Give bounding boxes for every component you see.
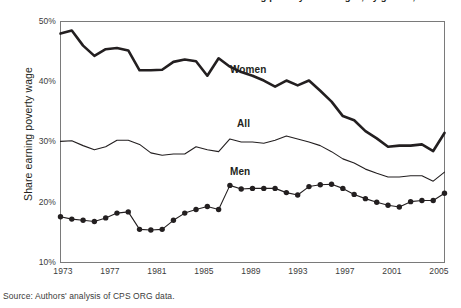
poverty-wage-chart-figure: Share of workers earning poverty-level w… — [0, 0, 461, 308]
data-point-men — [329, 181, 334, 186]
data-point-men — [250, 186, 255, 191]
data-point-men — [216, 207, 221, 212]
plot-area — [0, 0, 461, 308]
data-point-men — [340, 186, 345, 191]
data-point-men — [80, 218, 85, 223]
data-point-men — [295, 192, 300, 197]
data-point-men — [284, 190, 289, 195]
data-point-men — [408, 199, 413, 204]
data-point-men — [92, 219, 97, 224]
series-line-all — [61, 136, 445, 181]
data-point-men — [103, 215, 108, 220]
data-point-men — [205, 204, 210, 209]
data-point-men — [272, 186, 277, 191]
data-point-men — [114, 210, 119, 215]
data-point-men — [58, 214, 63, 219]
data-point-men — [137, 227, 142, 232]
data-point-men — [442, 191, 447, 196]
data-point-men — [193, 207, 198, 212]
data-point-men — [431, 198, 436, 203]
data-point-men — [69, 216, 74, 221]
data-point-men — [419, 198, 424, 203]
data-point-men — [385, 203, 390, 208]
data-point-men — [126, 209, 131, 214]
data-point-men — [171, 218, 176, 223]
data-point-men — [261, 186, 266, 191]
data-point-men — [374, 200, 379, 205]
series-label-men: Men — [230, 166, 250, 177]
data-point-men — [363, 196, 368, 201]
data-point-men — [227, 183, 232, 188]
series-line-women — [61, 31, 445, 151]
data-point-men — [148, 227, 153, 232]
data-point-men — [239, 186, 244, 191]
source-note: Source: Authors' analysis of CPS ORG dat… — [3, 291, 175, 301]
series-label-women: Women — [230, 64, 266, 75]
data-point-men — [351, 192, 356, 197]
data-point-men — [318, 182, 323, 187]
data-point-men — [182, 210, 187, 215]
data-point-men — [159, 227, 164, 232]
series-markers-men — [58, 181, 447, 232]
data-point-men — [397, 204, 402, 209]
data-point-men — [306, 184, 311, 189]
series-label-all: All — [237, 118, 250, 129]
